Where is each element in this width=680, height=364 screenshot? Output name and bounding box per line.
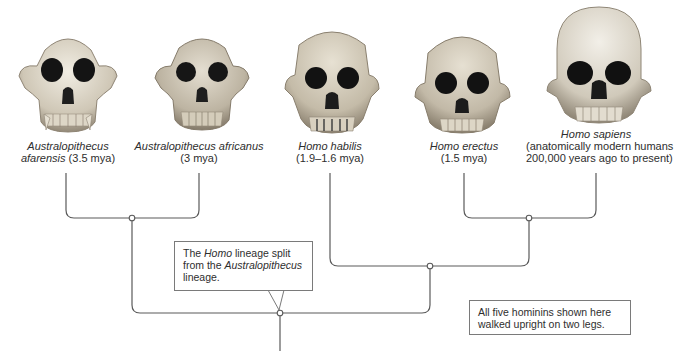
branch-africanus — [132, 173, 199, 218]
callout-text: lineage. — [183, 271, 220, 283]
node-erectus-sapiens — [526, 215, 532, 221]
callout-lineage-split: The Homo lineage split from the Australo… — [174, 241, 313, 291]
branch-sapiens — [529, 173, 596, 218]
branch-erectus-sapiens — [430, 218, 529, 266]
branch-erectus — [464, 173, 529, 218]
callout-pointer — [268, 290, 284, 310]
node-homo — [427, 263, 433, 269]
callout-text-australopithecus: Australopithecus — [224, 259, 302, 271]
callout-bipedal: All five hominins shown here walked upri… — [469, 300, 631, 335]
node-australopithecus — [129, 215, 135, 221]
branch-habilis — [330, 173, 430, 266]
callout-text: The — [183, 247, 204, 259]
callout-text-homo: Homo — [204, 247, 232, 259]
branch-afarensis — [66, 173, 132, 218]
node-root — [277, 310, 283, 316]
